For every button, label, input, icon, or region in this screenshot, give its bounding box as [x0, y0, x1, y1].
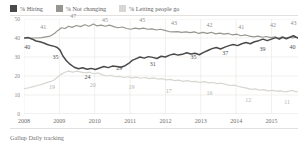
- footer-divider: [10, 128, 298, 129]
- y-axis-tick-label: 50: [4, 16, 20, 22]
- chart-figure: % Hiring% Not changing% Letting people g…: [0, 0, 304, 150]
- data-point-label: 12: [245, 97, 251, 104]
- data-point-label: 40: [289, 44, 295, 51]
- data-point-label: 41: [238, 24, 244, 31]
- data-point-label: 37: [222, 50, 228, 57]
- data-point-label: 17: [166, 88, 172, 95]
- data-point-label: 43: [171, 20, 177, 27]
- x-axis-tick-label: 2010: [79, 117, 111, 125]
- plot-svg: [24, 19, 298, 114]
- source-note: Gallup Daily tracking: [10, 133, 64, 142]
- data-point-label: 19: [49, 84, 55, 91]
- data-point-label: 35: [53, 54, 59, 61]
- data-point-label: 39: [259, 46, 265, 53]
- x-axis-tick-label: 2011: [114, 117, 146, 125]
- x-axis-tick-label: 2008: [8, 117, 40, 125]
- y-axis-tick-label: 40: [4, 35, 20, 41]
- legend-label: % Hiring: [20, 5, 43, 12]
- data-point-label: 24: [84, 74, 90, 81]
- data-point-label: 19: [129, 84, 135, 91]
- y-axis-tick-label: 20: [4, 73, 20, 79]
- data-point-label: 43: [291, 20, 297, 27]
- y-axis-tick-label: 30: [4, 54, 20, 60]
- legend-letting-people-go[interactable]: % Letting people go: [119, 5, 179, 12]
- data-point-label: 35: [190, 54, 196, 61]
- data-point-label: 45: [139, 17, 145, 24]
- legend-swatch-icon: [10, 5, 17, 12]
- data-point-label: 40: [24, 44, 30, 51]
- x-axis: 20082009201020112012201320142015: [24, 117, 298, 126]
- series-line-0: [25, 36, 298, 70]
- data-point-label: 11: [284, 99, 290, 106]
- legend-label: % Not changing: [66, 5, 106, 12]
- legend-swatch-icon: [56, 5, 63, 12]
- data-point-label: 16: [206, 90, 212, 97]
- x-axis-tick-label: 2012: [149, 117, 181, 125]
- legend-swatch-icon: [119, 5, 126, 12]
- legend-label: % Letting people go: [129, 5, 179, 12]
- data-point-label: 29: [116, 65, 122, 72]
- series-line-2: [25, 71, 298, 92]
- data-point-label: 42: [206, 22, 212, 29]
- data-point-label: 45: [102, 17, 108, 24]
- plot-area: [24, 19, 298, 114]
- x-axis-tick-label: 2014: [220, 117, 252, 125]
- x-axis-tick-label: 2015: [255, 117, 287, 125]
- chart-legend: % Hiring% Not changing% Letting people g…: [10, 3, 192, 14]
- data-point-label: 31: [150, 61, 156, 68]
- x-axis-tick-label: 2009: [43, 117, 75, 125]
- data-point-label: 47: [70, 13, 76, 20]
- x-axis-tick-label: 2013: [185, 117, 217, 125]
- legend-not-changing[interactable]: % Not changing: [56, 5, 106, 12]
- data-point-label: 42: [270, 22, 276, 29]
- series-line-1: [25, 24, 298, 38]
- data-point-label: 41: [40, 24, 46, 31]
- data-point-label: 20: [90, 82, 96, 89]
- legend-divider: [10, 15, 298, 16]
- legend-hiring[interactable]: % Hiring: [10, 5, 43, 12]
- y-axis-tick-label: 10: [4, 92, 20, 98]
